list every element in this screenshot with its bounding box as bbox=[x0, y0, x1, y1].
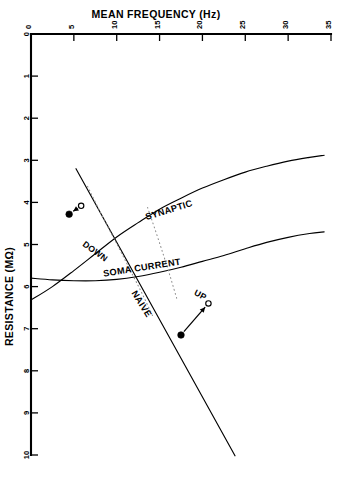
x-tick-label: 30 bbox=[281, 20, 290, 29]
y-tick-label: 0 bbox=[22, 32, 31, 36]
x-tick-label: 15 bbox=[153, 20, 162, 29]
axes: 05101520253035012345678910 bbox=[22, 20, 333, 459]
data-marker-filled-end bbox=[66, 211, 73, 218]
annotation-label-up: UP bbox=[193, 288, 209, 303]
curves bbox=[31, 155, 324, 456]
y-tick-label: 2 bbox=[22, 116, 31, 120]
y-tick-label: 4 bbox=[22, 200, 31, 205]
y-tick-label: 6 bbox=[22, 284, 31, 288]
y-tick-label: 10 bbox=[22, 451, 31, 460]
y-tick-label: 7 bbox=[22, 327, 31, 331]
x-tick-label: 5 bbox=[67, 25, 76, 29]
curve-synaptic bbox=[31, 155, 324, 300]
x-tick-label: 35 bbox=[324, 20, 333, 29]
x-tick-label: 0 bbox=[24, 25, 33, 29]
x-tick-label: 25 bbox=[238, 20, 247, 29]
y-tick-label: 9 bbox=[22, 411, 31, 415]
x-tick-label: 20 bbox=[195, 20, 204, 29]
y-tick-label: 1 bbox=[22, 74, 31, 78]
curve-label-synaptic: SYNAPTIC bbox=[144, 198, 194, 222]
curve-label-naive: NAIVE bbox=[129, 289, 153, 319]
data-marker-open-start bbox=[78, 203, 83, 208]
resistance-vs-frequency-chart: 05101520253035012345678910 DOWNUP SYNAPT… bbox=[0, 0, 340, 477]
y-tick-label: 5 bbox=[22, 242, 31, 246]
x-tick-label: 10 bbox=[110, 20, 119, 29]
y-axis-title: RESISTANCE (MΩ) bbox=[3, 247, 15, 346]
y-tick-label: 8 bbox=[22, 369, 31, 373]
y-tick-label: 3 bbox=[22, 158, 31, 162]
x-axis-title: MEAN FREQUENCY (Hz) bbox=[92, 8, 221, 20]
curve-labels: SYNAPTICSOMA CURRENTNAIVE bbox=[103, 198, 194, 319]
figure-container: 05101520253035012345678910 DOWNUP SYNAPT… bbox=[0, 0, 340, 477]
curve-soma-dotted-band bbox=[148, 207, 177, 298]
data-marker-open-end bbox=[206, 301, 211, 306]
axis-titles: MEAN FREQUENCY (Hz)RESISTANCE (MΩ) bbox=[3, 8, 220, 346]
annotation-label-down: DOWN bbox=[81, 239, 110, 264]
data-marker-filled-start bbox=[178, 332, 185, 339]
